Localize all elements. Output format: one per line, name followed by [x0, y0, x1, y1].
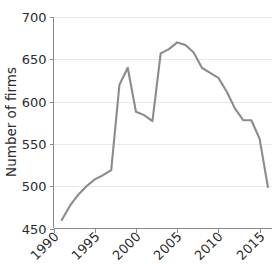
- y-axis-title: Number of firms: [3, 67, 19, 177]
- line-chart: 450500550600650700 199019952000200520102…: [0, 0, 276, 264]
- y-tick-label: 500: [22, 179, 47, 194]
- y-tick-label: 600: [22, 95, 47, 110]
- y-tick-label: 450: [22, 222, 47, 237]
- y-tick-label: 550: [22, 137, 47, 152]
- chart-figure: 450500550600650700 199019952000200520102…: [0, 0, 276, 264]
- y-tick-label: 650: [22, 52, 47, 67]
- y-tick-label: 700: [22, 10, 47, 25]
